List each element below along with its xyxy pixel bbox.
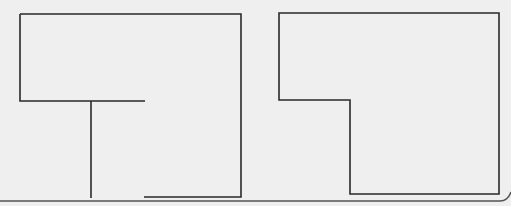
- shapes-group: [20, 13, 499, 198]
- diagram-canvas: [0, 0, 511, 206]
- left-shape-line-0: [20, 14, 241, 197]
- right-shape-line-0: [279, 13, 499, 194]
- left-shape-line-1: [20, 14, 145, 101]
- left-shape: [20, 14, 241, 198]
- right-shape: [279, 13, 499, 194]
